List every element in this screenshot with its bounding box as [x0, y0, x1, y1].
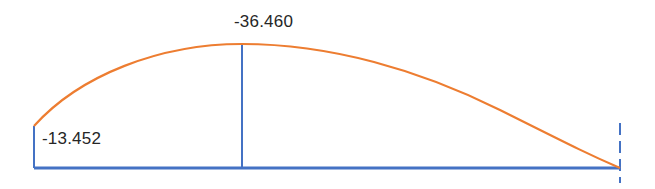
moment-curve-right [242, 44, 620, 168]
left-value-label: -13.452 [42, 130, 101, 147]
moment-diagram [0, 0, 655, 189]
moment-curve-left [34, 44, 242, 126]
peak-value-label: -36.460 [234, 13, 293, 30]
